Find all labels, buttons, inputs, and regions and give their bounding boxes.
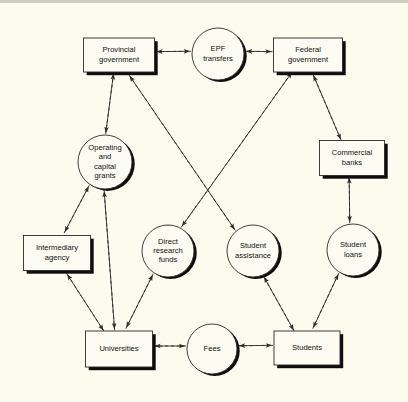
node-label-line: Fees — [204, 344, 221, 353]
node-universities[interactable]: Universities — [86, 331, 156, 370]
node-layer: ProvincialgovernmentEPFtransfersFederalg… — [24, 28, 388, 376]
node-label-line: government — [288, 55, 329, 64]
node-student_loans[interactable]: Studentloans — [327, 224, 382, 278]
node-label: Students — [292, 343, 322, 352]
node-label-line: Student — [340, 240, 367, 249]
node-label-line: Student — [240, 241, 267, 250]
diagram-canvas: ProvincialgovernmentEPFtransfersFederalg… — [0, 0, 408, 402]
node-label-line: and — [99, 152, 112, 161]
flow-diagram: ProvincialgovernmentEPFtransfersFederalg… — [0, 0, 408, 402]
node-direct_research_funds[interactable]: Directresearchfunds — [142, 225, 197, 279]
node-label-line: Federal — [295, 45, 321, 54]
edge-grants-to-intermediary — [65, 185, 89, 231]
node-intermediary_agency[interactable]: Intermediaryagency — [24, 236, 94, 274]
node-label-line: banks — [342, 158, 362, 167]
node-label-line: Provincial — [103, 45, 136, 54]
node-label-line: EPF — [211, 44, 226, 53]
node-label-line: transfers — [203, 54, 233, 63]
node-label-line: Students — [292, 343, 322, 352]
node-label-line: Intermediary — [36, 243, 78, 252]
node-label-line: assistance — [235, 251, 271, 260]
node-fees[interactable]: Fees — [187, 324, 240, 376]
node-label-line: agency — [45, 253, 70, 262]
node-label: Universities — [99, 344, 138, 353]
node-federal_government[interactable]: Federalgovernment — [274, 38, 346, 75]
node-label: Provincialgovernment — [99, 45, 140, 63]
node-label-line: capital — [94, 162, 116, 171]
node-label-line: Universities — [99, 344, 138, 353]
edge-layer — [64, 51, 350, 346]
node-epf_transfers[interactable]: EPFtransfers — [192, 28, 247, 82]
node-label-line: loans — [344, 250, 362, 259]
node-label-line: Commercial — [332, 148, 373, 157]
node-label-line: Operating — [88, 143, 121, 152]
node-students[interactable]: Students — [274, 331, 343, 368]
node-operating_capital_grants[interactable]: Operatingandcapitalgrants — [78, 135, 135, 191]
node-label-line: Direct — [158, 237, 179, 246]
node-label-line: government — [99, 55, 140, 64]
node-provincial_government[interactable]: Provincialgovernment — [84, 38, 158, 75]
node-label: Studentassistance — [235, 241, 271, 259]
node-label-line: grants — [94, 171, 115, 180]
node-commercial_banks[interactable]: Commercialbanks — [320, 141, 388, 179]
node-label: Fees — [204, 344, 221, 353]
node-label-line: funds — [159, 255, 178, 264]
node-label-line: research — [153, 246, 183, 255]
node-student_assistance[interactable]: Studentassistance — [227, 225, 282, 279]
